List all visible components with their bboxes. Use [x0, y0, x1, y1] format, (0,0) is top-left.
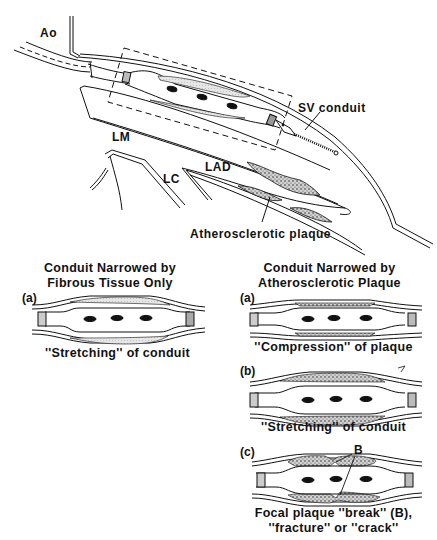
left-panel-a-caption: ''Stretching'' of conduit [0, 346, 235, 361]
left-panel-a-letter: (a) [22, 291, 37, 305]
label-atherosclerotic-plaque: Atherosclerotic plaque [190, 227, 331, 241]
right-panel-c-caption: Focal plaque ''break'' (B), ''fracture''… [230, 506, 437, 536]
right-panel-c-caption-line1: Focal plaque ''break'' (B), [230, 506, 437, 521]
right-panel-b-caption: ''Stretching'' of conduit [230, 420, 437, 435]
right-panel-c-caption-line2: ''fracture'' or ''crack'' [230, 521, 437, 536]
plaque-conduit-c [252, 454, 422, 506]
right-panel-title-line2: Atherosclerotic Plaque [222, 276, 437, 291]
label-left-circumflex: LC [163, 172, 180, 186]
label-lad: LAD [205, 160, 231, 174]
label-sv-conduit: SV conduit [298, 101, 366, 115]
right-panel-title-line1: Conduit Narrowed by [222, 261, 437, 276]
label-left-main: LM [112, 130, 130, 144]
aorta [14, 16, 92, 72]
plaque-conduit-b [250, 366, 422, 426]
left-panel-title-line2: Fibrous Tissue Only [0, 276, 220, 291]
right-panel-title: Conduit Narrowed by Atherosclerotic Plaq… [222, 261, 437, 291]
fibrous-conduit-a [32, 296, 205, 344]
break-marker-b: B [354, 443, 363, 457]
plaque-conduit-a [250, 300, 422, 340]
left-panel-title: Conduit Narrowed by Fibrous Tissue Only [0, 261, 220, 291]
right-panel-a-caption: ''Compression'' of plaque [230, 340, 437, 355]
right-panel-a-letter: (a) [240, 291, 255, 305]
label-aorta: Ao [40, 26, 57, 40]
sv-conduit [78, 54, 433, 248]
plaque-leader-line [262, 197, 270, 222]
right-panel-b-letter: (b) [240, 364, 255, 378]
right-panel-c-letter: (c) [240, 445, 255, 459]
left-panel-title-line1: Conduit Narrowed by [0, 261, 220, 276]
